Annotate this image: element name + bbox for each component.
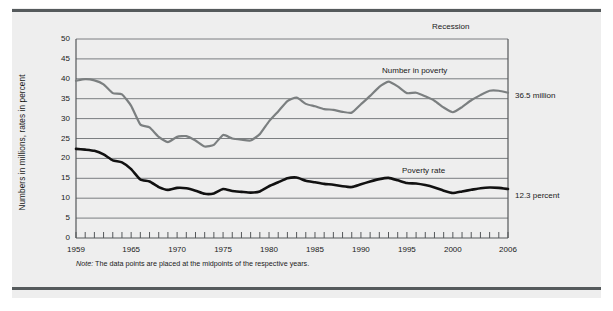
poverty-chart-figure: Numbers in millions, rates in percent 05… xyxy=(0,0,613,311)
x-tick-label: 1965 xyxy=(111,245,151,254)
y-tick-label: 30 xyxy=(48,114,70,123)
y-tick-label: 20 xyxy=(48,153,70,162)
callout-poverty-rate: 12.3 percent xyxy=(515,191,559,200)
note-body: The data points are placed at the midpoi… xyxy=(93,259,309,268)
x-tick-label: 1959 xyxy=(56,245,96,254)
y-tick-label: 15 xyxy=(48,173,70,182)
y-tick-label: 25 xyxy=(48,134,70,143)
y-tick-label: 35 xyxy=(48,94,70,103)
y-tick-label: 0 xyxy=(48,233,70,242)
chart-area: Numbers in millions, rates in percent 05… xyxy=(0,0,613,311)
y-tick-label: 40 xyxy=(48,74,70,83)
x-tick-label: 2000 xyxy=(433,245,473,254)
chart-note: Note: The data points are placed at the … xyxy=(76,259,309,268)
x-tick-label: 1980 xyxy=(249,245,289,254)
x-axis-tick-marks xyxy=(76,232,508,238)
x-tick-label: 2006 xyxy=(488,245,528,254)
recession-label: Recession xyxy=(432,22,469,31)
y-tick-label: 10 xyxy=(48,193,70,202)
x-tick-label: 1985 xyxy=(295,245,335,254)
y-tick-label: 45 xyxy=(48,54,70,63)
x-tick-label: 1995 xyxy=(387,245,427,254)
x-tick-label: 1990 xyxy=(341,245,381,254)
y-tick-label: 5 xyxy=(48,213,70,222)
note-prefix: Note: xyxy=(76,259,93,268)
x-tick-label: 1970 xyxy=(157,245,197,254)
x-tick-label: 1975 xyxy=(203,245,243,254)
callout-number-in-poverty: 36.5 million xyxy=(515,91,555,100)
series-annotation-poverty-rate: Poverty rate xyxy=(402,166,445,175)
series-annotation-number-in-poverty: Number in poverty xyxy=(382,66,447,75)
series-line-number-in-poverty xyxy=(76,79,508,146)
y-axis-title: Numbers in millions, rates in percent xyxy=(18,58,27,228)
y-tick-label: 50 xyxy=(48,34,70,43)
